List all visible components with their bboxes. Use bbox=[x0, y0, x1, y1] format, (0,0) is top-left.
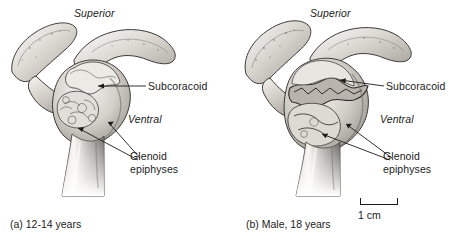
label-ventral-b: Ventral bbox=[380, 113, 414, 126]
label-subcoracoid-a: Subcoracoid bbox=[148, 80, 207, 93]
label-superior-b: Superior bbox=[310, 7, 351, 20]
label-glenoid-epiphyses-b: Glenoid epiphyses bbox=[383, 150, 456, 175]
label-glenoid-epiphyses-a: Glenoid epiphyses bbox=[130, 150, 204, 175]
label-subcoracoid-b: Subcoracoid bbox=[386, 80, 445, 93]
panel-caption-a: (a) 12-14 years bbox=[10, 218, 81, 230]
scale-bar-label: 1 cm bbox=[358, 209, 381, 221]
anatomical-figure: Superior Subcoracoid Ventral Glenoid epi… bbox=[0, 0, 456, 243]
scale-bar: 1 cm bbox=[358, 198, 422, 232]
scale-bar-bracket bbox=[360, 198, 398, 205]
label-superior-a: Superior bbox=[74, 7, 115, 20]
panel-caption-b: (b) Male, 18 years bbox=[246, 218, 331, 230]
label-ventral-a: Ventral bbox=[128, 113, 162, 126]
figure-panel-a: Superior Subcoracoid Ventral Glenoid epi… bbox=[0, 0, 228, 243]
